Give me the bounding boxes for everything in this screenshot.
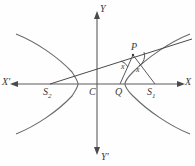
- point-label-Q: Q: [115, 87, 122, 97]
- axis-label-x-negative: X': [2, 77, 10, 87]
- y-axis: [94, 11, 100, 155]
- point-label-S2: S2: [43, 87, 52, 100]
- axis-label-y-positive: Y: [100, 4, 106, 14]
- figure-canvas: [0, 0, 195, 166]
- hyperbola-figure: X' X Y Y' C Q P S1 S2 x x: [0, 0, 195, 166]
- point-label-S2-subscript: 2: [48, 92, 52, 100]
- axis-label-y-negative: Y': [101, 152, 109, 162]
- axis-label-x-positive: X: [185, 77, 191, 87]
- angle-label-right: x: [136, 66, 140, 74]
- point-label-S1: S1: [147, 87, 156, 100]
- point-label-C: C: [89, 87, 96, 97]
- y-axis-bottom-arrowhead: [94, 147, 100, 155]
- angle-label-left: x: [121, 63, 125, 71]
- point-label-P: P: [131, 42, 137, 52]
- x-axis-right-arrowhead: [177, 81, 185, 87]
- point-label-S1-subscript: 1: [152, 92, 156, 100]
- x-axis-left-arrowhead: [10, 81, 18, 87]
- point-P-marker: [132, 54, 134, 56]
